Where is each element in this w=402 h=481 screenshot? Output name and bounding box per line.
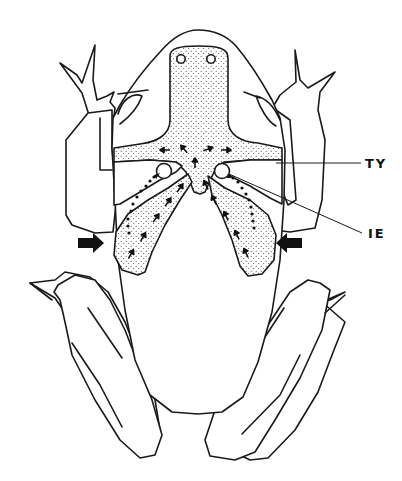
frog-diagram: TY IE [0, 0, 402, 481]
left-ear-opening [157, 164, 172, 179]
label-ty-text: TY [365, 156, 387, 171]
left-nostril [177, 55, 185, 63]
right-nostril [207, 55, 215, 63]
left-front-leg [60, 45, 117, 233]
left-block-arrow[interactable] [78, 233, 104, 253]
label-ie-text: IE [368, 226, 386, 241]
right-ear-opening [215, 164, 230, 179]
